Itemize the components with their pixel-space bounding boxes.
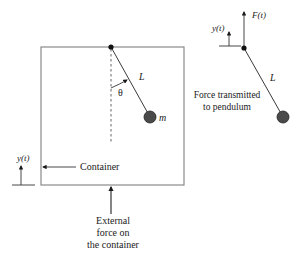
length-label: L — [269, 72, 276, 83]
external-force-caption-line3: the container — [87, 239, 140, 250]
left-pendulum: θ L m — [108, 44, 166, 143]
angle-label: θ — [118, 87, 123, 98]
mass-label: m — [159, 112, 166, 123]
pendulum-bob — [277, 111, 289, 123]
displacement-label: y(t) — [16, 153, 30, 163]
external-force-annotation: External force on the container — [87, 187, 140, 250]
length-label: L — [138, 71, 145, 82]
container-label: Container — [80, 161, 120, 172]
external-force-caption-line2: force on — [96, 227, 129, 238]
left-displacement-indicator: y(t) — [12, 153, 35, 185]
pendulum-diagram: θ L m y(t) Container External force on t… — [0, 0, 302, 255]
pivot-point — [108, 44, 113, 49]
caption-line1: Force transmitted — [194, 90, 261, 100]
pivot-point — [241, 45, 246, 50]
container-annotation: Container — [43, 161, 120, 172]
caption-line2: to pendulum — [203, 102, 251, 112]
force-label: F(t) — [251, 10, 266, 20]
right-pendulum: F(t) y(t) L Force transmitted to pendulu… — [194, 10, 289, 123]
external-force-caption-line1: External — [96, 215, 130, 226]
displacement-label: y(t) — [211, 23, 225, 33]
pendulum-rod — [111, 47, 150, 117]
pendulum-bob — [144, 111, 156, 123]
